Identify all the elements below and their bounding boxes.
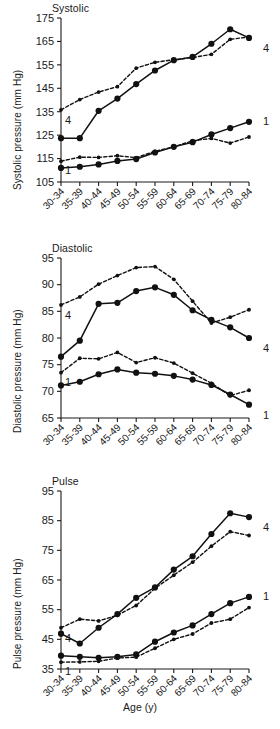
data-point (77, 338, 83, 344)
data-point (172, 573, 176, 577)
data-point (208, 41, 214, 47)
plot-area-systolic: 10511512513514515516517530-3435-3940-444… (0, 0, 280, 240)
y-tick-label: 65 (42, 412, 54, 424)
data-point (114, 95, 120, 101)
y-tick-label: 90 (42, 278, 54, 290)
series-label-4-left: 4 (65, 632, 71, 644)
data-point (228, 315, 232, 319)
data-point (116, 656, 120, 660)
data-point (78, 356, 82, 360)
x-tick-label: 80-84 (229, 421, 255, 447)
data-point (208, 611, 214, 617)
data-point (210, 52, 214, 56)
data-point (228, 37, 232, 41)
y-tick-label: 85 (42, 305, 54, 317)
y-tick-label: 135 (36, 106, 54, 118)
data-point (133, 81, 139, 87)
data-point (191, 299, 195, 303)
data-point (247, 308, 251, 312)
data-point (116, 85, 120, 89)
series-1-solid (58, 366, 252, 407)
data-point (247, 35, 251, 39)
data-point (246, 594, 252, 600)
data-point (97, 619, 101, 623)
data-point (59, 660, 63, 664)
data-point (77, 379, 83, 385)
x-axis-ticks: 30-3435-3940-4445-4950-5455-5960-6465-69… (41, 418, 255, 448)
data-point (172, 277, 176, 281)
data-point (228, 394, 232, 398)
data-point (134, 156, 138, 160)
data-point (191, 56, 195, 60)
data-point (58, 653, 64, 659)
y-tick-label: 75 (42, 544, 54, 556)
data-point (59, 303, 63, 307)
data-point (191, 632, 195, 636)
data-point (134, 604, 138, 608)
data-point (210, 381, 214, 385)
y-tick-label: 95 (42, 485, 54, 497)
data-point (190, 553, 196, 559)
data-point (247, 388, 251, 392)
data-point (59, 108, 63, 112)
y-tick-label: 175 (36, 12, 54, 24)
data-point (172, 361, 176, 365)
y-axis-ticks: 65707580859095 (42, 252, 61, 424)
series-1-dashed (59, 135, 251, 163)
data-point (97, 282, 101, 286)
series-1-dashed (59, 606, 251, 664)
data-point (191, 139, 195, 143)
data-point (190, 622, 196, 628)
data-point (208, 531, 214, 537)
data-point (247, 135, 251, 139)
data-point (116, 351, 120, 355)
data-point (59, 371, 63, 375)
panel-systolic: Systolic Systolic pressure (mm Hg) 10511… (0, 0, 280, 240)
y-tick-label: 45 (42, 633, 54, 645)
series-label-4-left: 4 (65, 114, 71, 126)
data-point (133, 370, 139, 376)
y-tick-label: 155 (36, 59, 54, 71)
data-point (78, 660, 82, 664)
y-tick-label: 85 (42, 514, 54, 526)
series-label-1-right: 1 (263, 115, 269, 127)
data-point (172, 145, 176, 149)
data-point (153, 60, 157, 64)
data-point (153, 149, 157, 153)
data-point (78, 295, 82, 299)
data-point (96, 301, 102, 307)
data-point (78, 155, 82, 159)
y-axis-ticks: 105115125135145155165175 (36, 12, 61, 188)
data-point (153, 356, 157, 360)
data-point (152, 371, 158, 377)
data-point (171, 292, 177, 298)
plot-area-pulse: 3545556575859530-3435-3940-4445-4950-545… (0, 473, 280, 729)
data-point (246, 402, 252, 408)
data-point (77, 654, 83, 660)
data-point (114, 158, 120, 164)
x-axis-ticks: 30-3435-3940-4445-4950-5455-5960-6465-69… (41, 182, 255, 212)
data-point (116, 154, 120, 158)
data-point (246, 335, 252, 341)
data-point (96, 625, 102, 631)
series-label-1-left: 1 (65, 376, 71, 388)
data-point (116, 613, 120, 617)
data-point (96, 108, 102, 114)
panel-pulse: Pulse Pulse pressure (mm Hg) 35455565758… (0, 473, 280, 729)
series-4-dashed (59, 265, 251, 325)
data-point (58, 165, 64, 171)
x-axis-ticks: 30-3435-3940-4445-4950-5455-5960-6465-69… (41, 669, 255, 699)
series-label-1-left: 1 (65, 665, 71, 677)
data-point (134, 266, 138, 270)
series-4-solid (58, 26, 252, 141)
data-point (58, 135, 64, 141)
data-point (247, 606, 251, 610)
data-point (246, 514, 252, 520)
series-label-1-right: 1 (263, 590, 269, 602)
data-point (190, 307, 196, 313)
x-tick-label: 80-84 (229, 672, 255, 698)
data-point (114, 366, 120, 372)
data-point (172, 637, 176, 641)
data-point (97, 357, 101, 361)
data-point (116, 274, 120, 278)
